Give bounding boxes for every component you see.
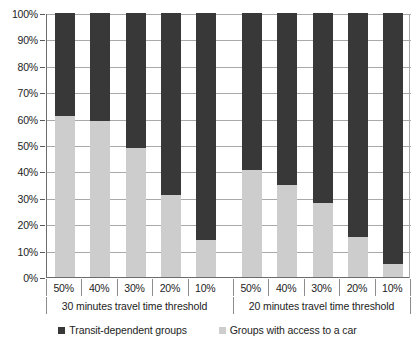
bar-segment-car-access: [126, 148, 146, 277]
chart-bar: [196, 13, 216, 277]
x-axis-category-label: 10%: [188, 278, 223, 297]
y-axis-tick-label: 20%: [18, 220, 38, 231]
x-axis-separator: [410, 279, 411, 296]
bar-segment-transit-dependent: [383, 13, 403, 264]
y-axis-tick-mark: [40, 278, 45, 279]
y-axis-tick-label: 30%: [18, 194, 38, 205]
x-axis-separator: [339, 279, 340, 296]
legend-item: Groups with access to a car: [219, 324, 357, 336]
chart-bar: [126, 13, 146, 277]
y-axis: 0%10%20%30%40%50%60%70%80%90%100%: [0, 0, 46, 290]
bar-segment-car-access: [313, 203, 333, 277]
x-axis: 50%40%30%20%10%50%40%30%20%10% 30 minute…: [46, 278, 411, 314]
y-axis-tick-label: 100%: [12, 9, 38, 20]
y-axis-tick-mark: [40, 225, 45, 226]
x-axis-group-row: 30 minutes travel time threshold20 minut…: [46, 297, 411, 314]
y-axis-tick-label: 90%: [18, 35, 38, 46]
x-axis-separator: [375, 279, 376, 296]
bar-segment-car-access: [348, 237, 368, 277]
bar-segment-car-access: [55, 116, 75, 277]
x-axis-category-label: 30%: [304, 278, 339, 297]
bar-segment-transit-dependent: [348, 13, 368, 237]
chart-bar: [383, 13, 403, 277]
x-axis-separator: [152, 279, 153, 296]
x-axis-group-separator: [410, 297, 411, 314]
x-axis-separator: [117, 279, 118, 296]
x-axis-category-label: 40%: [81, 278, 116, 297]
x-axis-category-label: 30%: [117, 278, 152, 297]
bar-segment-transit-dependent: [313, 13, 333, 203]
chart-bar: [348, 13, 368, 277]
bar-segment-car-access: [196, 240, 216, 277]
bar-segment-transit-dependent: [55, 13, 75, 116]
bar-segment-transit-dependent: [242, 13, 262, 170]
x-axis-separator: [268, 279, 269, 296]
bar-segment-transit-dependent: [126, 13, 146, 148]
legend-swatch-icon: [219, 327, 226, 334]
y-axis-tick-mark: [40, 172, 45, 173]
bar-segment-transit-dependent: [161, 13, 181, 195]
x-axis-category-label: 20%: [152, 278, 187, 297]
y-axis-tick-label: 80%: [18, 62, 38, 73]
chart-bar: [161, 13, 181, 277]
legend-label: Groups with access to a car: [230, 324, 357, 336]
chart-bar: [277, 13, 297, 277]
plot-area: [46, 14, 410, 278]
x-axis-category-label: 40%: [268, 278, 303, 297]
y-axis-tick-mark: [40, 199, 45, 200]
y-axis-tick-label: 40%: [18, 167, 38, 178]
y-axis-tick-mark: [40, 14, 45, 15]
y-axis-tick-mark: [40, 93, 45, 94]
bar-segment-car-access: [161, 195, 181, 277]
bar-segment-transit-dependent: [277, 13, 297, 185]
y-axis-tick-mark: [40, 40, 45, 41]
legend-swatch-icon: [58, 327, 65, 334]
x-axis-group-separator: [233, 297, 234, 314]
x-axis-separator: [46, 279, 47, 296]
y-axis-tick-label: 60%: [18, 114, 38, 125]
chart-bar: [242, 13, 262, 277]
bar-segment-car-access: [277, 185, 297, 277]
y-axis-tick-label: 10%: [18, 246, 38, 257]
x-axis-group-label: 20 minutes travel time threshold: [233, 297, 410, 314]
x-axis-category-label: 10%: [375, 278, 410, 297]
stacked-bar-chart: 0%10%20%30%40%50%60%70%80%90%100% 50%40%…: [0, 0, 415, 343]
x-axis-category-label: 50%: [233, 278, 268, 297]
y-axis-tick-label: 70%: [18, 88, 38, 99]
chart-legend: Transit-dependent groupsGroups with acce…: [0, 321, 415, 339]
chart-bar: [55, 13, 75, 277]
legend-item: Transit-dependent groups: [58, 324, 186, 336]
bar-segment-transit-dependent: [90, 13, 110, 121]
x-axis-separator: [81, 279, 82, 296]
x-axis-separator: [304, 279, 305, 296]
y-axis-tick-mark: [40, 146, 45, 147]
x-axis-category-label: 50%: [46, 278, 81, 297]
x-axis-separator: [233, 279, 234, 296]
x-axis-category-row: 50%40%30%20%10%50%40%30%20%10%: [46, 278, 411, 297]
bar-segment-transit-dependent: [196, 13, 216, 240]
y-axis-tick-label: 0%: [23, 273, 38, 284]
x-axis-category-label: 20%: [339, 278, 374, 297]
y-axis-tick-mark: [40, 120, 45, 121]
y-axis-tick-mark: [40, 67, 45, 68]
bar-segment-car-access: [383, 264, 403, 277]
bar-segment-car-access: [90, 121, 110, 277]
y-axis-tick-mark: [40, 252, 45, 253]
x-axis-separator: [188, 279, 189, 296]
legend-label: Transit-dependent groups: [69, 324, 186, 336]
y-axis-tick-label: 50%: [18, 141, 38, 152]
x-axis-group-label: 30 minutes travel time threshold: [46, 297, 223, 314]
bar-segment-car-access: [242, 170, 262, 277]
x-axis-group-separator: [46, 297, 47, 314]
chart-bar: [90, 13, 110, 277]
chart-bar: [313, 13, 333, 277]
